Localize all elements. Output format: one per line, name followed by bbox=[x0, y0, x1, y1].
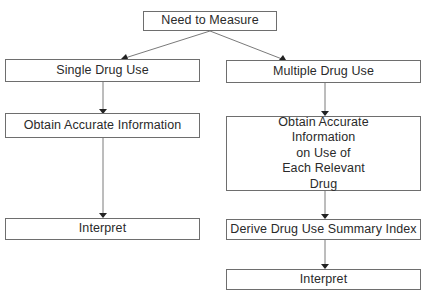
node-need-to-measure: Need to Measure bbox=[143, 11, 277, 31]
node-label: Multiple Drug Use bbox=[273, 64, 374, 80]
node-label: Obtain Accurate Information bbox=[24, 118, 182, 134]
node-label: Interpret bbox=[300, 272, 347, 288]
node-label: Interpret bbox=[79, 221, 126, 237]
node-multiple-drug-use: Multiple Drug Use bbox=[226, 60, 421, 83]
node-interpret-multiple: Interpret bbox=[226, 269, 421, 290]
node-interpret-single: Interpret bbox=[5, 218, 200, 240]
node-derive-summary-index: Derive Drug Use Summary Index bbox=[226, 219, 421, 240]
node-obtain-accurate-information-single: Obtain Accurate Information bbox=[5, 113, 200, 138]
node-label: Single Drug Use bbox=[56, 63, 149, 79]
node-label: Obtain Accurate Information on Use of Ea… bbox=[278, 115, 368, 193]
node-label: Derive Drug Use Summary Index bbox=[230, 222, 416, 238]
node-obtain-accurate-information-multiple: Obtain Accurate Information on Use of Ea… bbox=[226, 116, 421, 191]
node-label: Need to Measure bbox=[161, 13, 258, 29]
node-single-drug-use: Single Drug Use bbox=[5, 59, 200, 82]
